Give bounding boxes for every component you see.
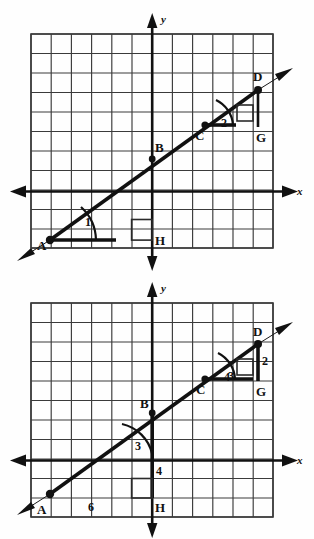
bottom-diagram-svg: y x [0,272,314,539]
top-diagram-svg: y x [0,0,314,272]
point-label-C-top: C [195,128,204,143]
x-axis-label: x [296,185,303,197]
point-B-dot-top [149,156,156,163]
point-D-dot-bottom [254,340,262,348]
point-label-G-bottom: G [256,384,266,399]
point-label-B-top: B [155,140,164,155]
point-label-H-bottom: H [155,500,165,515]
side-label-run-CG: 3 [228,369,234,383]
point-label-B-bottom: B [140,396,149,411]
point-A-dot-bottom [46,490,54,498]
point-D-dot-top [254,86,262,94]
coordinate-plane-bottom: y x [0,272,314,539]
point-label-A-top: A [37,238,47,253]
side-label-run-AH: 6 [88,500,94,514]
point-label-H-top: H [155,233,165,248]
point-label-C-bottom: C [196,382,205,397]
point-label-G-top: G [256,130,266,145]
angle-label-2-top: 2 [221,116,227,130]
angle-label-3-bottom: 3 [135,439,141,453]
axes-bottom [10,282,298,538]
axes-top [10,13,298,271]
y-axis-label: y [159,13,166,25]
x-axis-label-bottom: x [296,454,303,466]
side-label-rise-BH: 4 [156,464,162,478]
coordinate-plane-top: y x [0,0,314,272]
point-A-dot-top [46,236,54,244]
angle-label-1-top: 1 [85,215,91,229]
point-label-D-bottom: D [253,324,262,339]
point-label-A-bottom: A [37,502,47,517]
side-label-rise-DG: 2 [262,354,268,368]
point-label-D-top: D [253,69,262,84]
worksheet-page: y x [0,0,314,539]
y-axis-label-bottom: y [159,282,166,294]
point-B-dot-bottom [149,410,156,417]
